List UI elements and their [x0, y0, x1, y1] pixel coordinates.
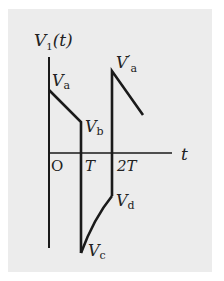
label-Vc: Vc	[88, 241, 106, 262]
x-axis-label: t	[181, 144, 188, 164]
label-Va-prime: V′a	[116, 53, 138, 75]
y-axis-label: V1(t)	[34, 30, 73, 52]
waveform-segment-2	[112, 71, 143, 196]
label-Vb: Vb	[85, 117, 104, 138]
label-Va: Va	[52, 71, 71, 92]
origin-label: O	[51, 157, 63, 175]
tick-2T: 2T	[116, 157, 138, 175]
label-Vd: Vd	[116, 191, 135, 212]
voltage-waveform-diagram: V1(t) t O T 2T Va Vb V′a Vd Vc	[0, 0, 224, 281]
tick-T: T	[85, 157, 96, 175]
